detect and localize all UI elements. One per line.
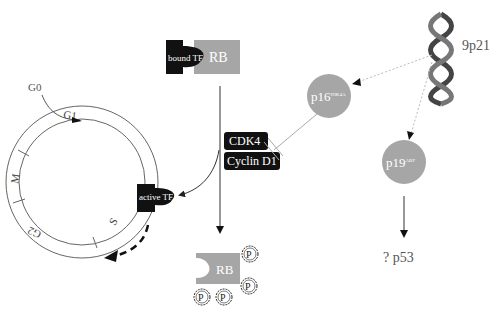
phosphate-label: P [245,281,251,292]
rb-label: RB [209,50,228,65]
phosphorylated-rb: RB P P P P [194,246,258,305]
rb-phospho-label: RB [216,262,234,277]
phosphate-3: P [194,289,210,305]
bound-tf-label: bound TF [168,53,203,63]
dashed-progression-arrow [118,225,148,255]
p16-arrowhead-icon [352,78,361,86]
phosphate-1: P [242,246,258,262]
phase-g2-label: G2 [26,225,43,242]
diagram-canvas: G1 M G2 S G0 bound TF RB CDK4 Cyclin D1 … [0,0,502,318]
release-tf-arrow [180,150,219,195]
phosphate-4: P [216,289,232,305]
p16-node: p16INK4A [307,74,351,118]
phosphate-2: P [241,278,257,294]
active-tf: active TF [137,184,174,212]
cyclin-d1-label: Cyclin D1 [227,154,277,168]
phase-g0-label: G0 [28,81,42,93]
chromosome-9p21: 9p21 [431,14,491,104]
bound-tf-rb-complex: bound TF RB [166,40,240,74]
g1-arrowhead-icon [72,117,82,123]
p19-node: p19ARF [382,140,426,184]
p19-arrowhead-icon [407,131,414,140]
phosphate-label: P [220,292,226,303]
phase-s-label: S [106,216,119,227]
phosphate-label: P [246,249,252,260]
p53-label: ? p53 [383,250,414,265]
cdk4-label: CDK4 [229,134,260,148]
9p21-to-p16-arrow [358,55,432,82]
cell-cycle: G1 M G2 S G0 [6,81,158,258]
p16-inhibition-line [274,114,317,150]
active-tf-label: active TF [139,192,173,202]
chromosome-label: 9p21 [462,38,490,53]
phosphate-label: P [198,292,204,303]
